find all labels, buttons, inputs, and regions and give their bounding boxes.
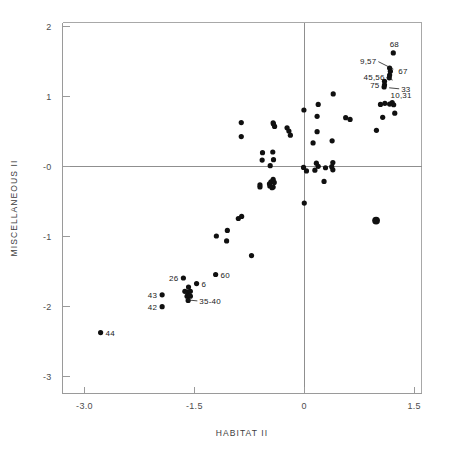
point-label: 67 [398, 67, 408, 76]
data-point [312, 168, 317, 173]
x-tick-label: 1.5 [407, 401, 420, 411]
data-point [391, 102, 396, 107]
data-point [188, 289, 193, 294]
point-label: 35-40 [199, 297, 221, 306]
data-point [257, 184, 262, 189]
data-point [224, 238, 229, 243]
data-point [272, 180, 277, 185]
data-point [160, 304, 165, 309]
data-point [271, 184, 276, 189]
point-label: 10,31 [391, 91, 412, 100]
x-tick-label: -1.5 [186, 401, 203, 411]
point-label: 43 [148, 291, 158, 300]
data-point [225, 228, 230, 233]
data-point [392, 111, 397, 116]
y-tick-label: 1 [46, 92, 51, 102]
data-point [249, 253, 254, 258]
data-point [315, 114, 320, 119]
y-tick-label: 2 [46, 22, 51, 32]
y-axis-ticks: 21-0-1-2-3 [43, 22, 70, 382]
data-point [181, 275, 186, 280]
data-point [194, 281, 199, 286]
y-axis-title: MISCELLANEOUS II [9, 160, 19, 257]
data-point [270, 149, 275, 154]
data-point [302, 201, 307, 206]
y-tick-label: -2 [43, 302, 52, 312]
leader-line [378, 62, 393, 70]
data-point [304, 168, 309, 173]
x-tick-label: -3.0 [76, 401, 93, 411]
x-axis-title: HABITAT II [216, 428, 269, 438]
point-label: 6 [202, 280, 207, 289]
data-point [213, 272, 218, 277]
data-point [382, 101, 387, 106]
point-label: 9,57 [360, 57, 377, 66]
data-point [378, 102, 383, 107]
y-tick-label: -3 [43, 372, 52, 382]
data-point [372, 217, 380, 225]
plot-canvas: -3.0-1.501.5 21-0-1-2-3 689,576745,56337… [0, 0, 449, 452]
data-point [260, 150, 265, 155]
point-label: 26 [169, 274, 179, 283]
data-point [271, 157, 276, 162]
data-point [347, 117, 352, 122]
data-point [374, 128, 379, 133]
data-point [271, 120, 276, 125]
data-point-group [98, 50, 397, 335]
data-point [316, 102, 321, 107]
data-point [268, 163, 273, 168]
data-point [330, 167, 335, 172]
data-point [380, 115, 385, 120]
data-point [391, 50, 396, 55]
point-label: 60 [221, 271, 231, 280]
y-tick-label: -1 [43, 232, 52, 242]
point-label: 75 [370, 81, 380, 90]
data-point [321, 179, 326, 184]
x-tick-label: 0 [302, 401, 307, 411]
leader-line [389, 88, 399, 89]
data-point [98, 330, 103, 335]
callout-leader-lines [187, 62, 399, 301]
data-point [310, 140, 315, 145]
data-point [260, 157, 265, 162]
x-axis-ticks: -3.0-1.501.5 [76, 387, 421, 411]
point-label: 68 [390, 40, 400, 49]
data-point [288, 133, 293, 138]
data-point [239, 134, 244, 139]
y-tick-label: -0 [43, 162, 52, 172]
data-point [214, 233, 219, 238]
data-point [323, 165, 328, 170]
data-point [239, 214, 244, 219]
scatter-plot-figure: -3.0-1.501.5 21-0-1-2-3 689,576745,56337… [0, 0, 449, 452]
data-point [239, 120, 244, 125]
data-point [330, 138, 335, 143]
data-point [160, 292, 165, 297]
data-point [315, 129, 320, 134]
point-label: 42 [148, 303, 158, 312]
data-point [301, 107, 306, 112]
data-point [331, 91, 336, 96]
point-label: 44 [106, 329, 116, 338]
